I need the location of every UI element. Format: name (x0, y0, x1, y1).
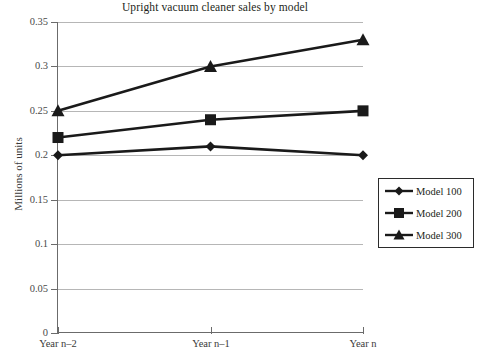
gridline (58, 200, 363, 201)
legend-item-model-200[interactable]: Model 200 (384, 203, 472, 223)
legend-label-model-100: Model 100 (414, 186, 462, 197)
data-point-marker (206, 141, 216, 151)
legend-item-model-100[interactable]: Model 100 (384, 181, 472, 201)
y-axis-tick-label: 0.35 (4, 16, 48, 27)
gridline (58, 111, 363, 112)
y-axis-title: Millions of units (12, 104, 24, 244)
y-axis-tick-label: 0.05 (4, 283, 48, 294)
x-axis-tick-label: Year n–1 (156, 338, 266, 349)
y-axis-line (57, 22, 58, 334)
chart-title: Upright vacuum cleaner sales by model (0, 1, 430, 13)
legend-label-model-300: Model 300 (414, 230, 462, 241)
triangle-marker-icon (384, 227, 414, 243)
series-line (58, 111, 363, 138)
data-point-marker (357, 33, 370, 45)
y-axis-tick-label: 0.2 (4, 149, 48, 160)
legend: Model 100 Model 200 Model 300 (378, 178, 474, 248)
y-axis-tick-label: 0.3 (4, 60, 48, 71)
data-point-marker (205, 114, 216, 125)
x-axis-tick-label: Year n–2 (3, 338, 113, 349)
y-axis-tick-label: 0.1 (4, 238, 48, 249)
gridline (58, 289, 363, 290)
x-axis-tick (58, 327, 59, 334)
series-line (58, 40, 363, 111)
legend-item-model-300[interactable]: Model 300 (384, 225, 472, 245)
gridline (58, 155, 363, 156)
x-axis-tick (363, 327, 364, 334)
series-line (58, 146, 363, 155)
gridline (58, 22, 363, 23)
series-model-100 (53, 141, 368, 160)
square-marker-icon (384, 205, 414, 221)
legend-label-model-200: Model 200 (414, 208, 462, 219)
diamond-marker-icon (384, 183, 414, 199)
y-axis-tick-label: 0.15 (4, 194, 48, 205)
gridline (58, 244, 363, 245)
series-model-300 (52, 33, 370, 116)
y-axis-tick-label: 0 (4, 327, 48, 338)
x-axis-tick-label: Year n (308, 338, 418, 349)
chart-container: Upright vacuum cleaner sales by model Mi… (0, 0, 478, 359)
x-axis-tick (211, 327, 212, 334)
y-axis-tick-label: 0.25 (4, 105, 48, 116)
gridline (58, 66, 363, 67)
